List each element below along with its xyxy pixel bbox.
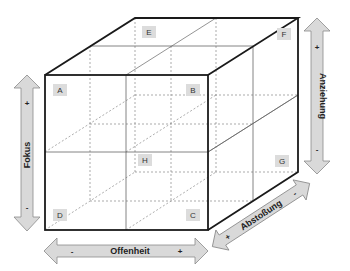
svg-text:B: B bbox=[190, 86, 195, 95]
svg-text:-: - bbox=[316, 145, 319, 154]
svg-text:H: H bbox=[142, 156, 148, 165]
cell-label-d: D bbox=[53, 209, 67, 221]
svg-text:Fokus: Fokus bbox=[22, 142, 32, 169]
cell-label-c: C bbox=[186, 209, 200, 221]
cell-labels: A B C D E F G H bbox=[53, 26, 291, 221]
abstossung-axis-arrow: + Abstoßung - bbox=[206, 173, 316, 256]
svg-text:D: D bbox=[57, 211, 63, 220]
svg-text:A: A bbox=[57, 86, 63, 95]
hidden-grid-lines bbox=[45, 18, 298, 230]
svg-text:-: - bbox=[26, 203, 29, 212]
svg-text:Anziehung: Anziehung bbox=[318, 73, 328, 119]
cell-label-e: E bbox=[142, 26, 156, 38]
svg-text:-: - bbox=[71, 247, 74, 256]
cell-label-b: B bbox=[186, 84, 200, 96]
svg-text:C: C bbox=[190, 211, 196, 220]
svg-text:Abstoßung: Abstoßung bbox=[238, 198, 283, 232]
svg-text:+: + bbox=[25, 99, 30, 108]
svg-text:Offenheit: Offenheit bbox=[110, 246, 150, 256]
cube-diagram: A B C D E F G H + - Fokus + - Anziehung … bbox=[0, 0, 350, 271]
anziehung-axis-arrow: + - Anziehung bbox=[304, 18, 330, 174]
svg-text:G: G bbox=[279, 157, 285, 166]
fokus-axis-arrow: + - Fokus bbox=[14, 75, 40, 231]
svg-text:+: + bbox=[178, 247, 183, 256]
offenheit-axis-arrow: - Offenheit + bbox=[44, 238, 208, 264]
svg-text:+: + bbox=[315, 43, 320, 52]
visible-grid-lines bbox=[45, 46, 298, 230]
svg-text:E: E bbox=[146, 28, 151, 37]
cell-label-g: G bbox=[275, 155, 289, 167]
cell-label-h: H bbox=[138, 154, 152, 166]
svg-text:F: F bbox=[282, 30, 287, 39]
cell-label-a: A bbox=[53, 84, 67, 96]
cell-label-f: F bbox=[277, 28, 291, 40]
